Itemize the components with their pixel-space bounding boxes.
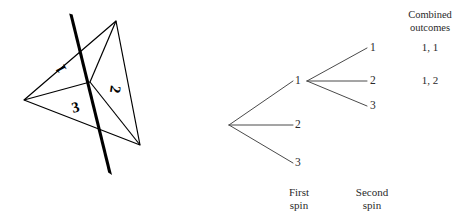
tree-diagram: 1 2 3 1 2 3 Combined outcomes 1, 1 1, 2 … bbox=[200, 0, 468, 221]
caption-first-spin-line1: First bbox=[268, 186, 330, 199]
combined-outcomes-header-line2: outcomes bbox=[395, 21, 465, 34]
figure-canvas: 1 2 3 1 2 3 1 2 3 bbox=[0, 0, 468, 221]
branch-first-3 bbox=[229, 125, 293, 163]
branch-second-3 bbox=[307, 81, 367, 106]
tree-node-second-2: 2 bbox=[370, 74, 376, 88]
branch-second-1 bbox=[307, 48, 367, 81]
combined-outcome-row-2: 1, 2 bbox=[395, 74, 465, 87]
tree-node-second-3: 3 bbox=[370, 99, 376, 113]
tree-node-second-1: 1 bbox=[370, 41, 376, 55]
combined-outcomes-header-line1: Combined bbox=[395, 8, 465, 21]
tree-node-first-3: 3 bbox=[295, 156, 301, 170]
caption-first-spin-line2: spin bbox=[268, 199, 330, 212]
tree-node-first-2: 2 bbox=[295, 118, 301, 132]
caption-second-spin-line2: spin bbox=[341, 199, 403, 212]
branch-first-1 bbox=[229, 81, 293, 125]
caption-second-spin-line1: Second bbox=[341, 186, 403, 199]
spinner-svg: 1 2 3 bbox=[0, 0, 200, 200]
spinner-figure: 1 2 3 bbox=[0, 0, 200, 200]
combined-outcome-row-1: 1, 1 bbox=[395, 41, 465, 54]
tree-node-first-1: 1 bbox=[295, 74, 301, 88]
spinner-outer-triangle bbox=[24, 21, 140, 145]
